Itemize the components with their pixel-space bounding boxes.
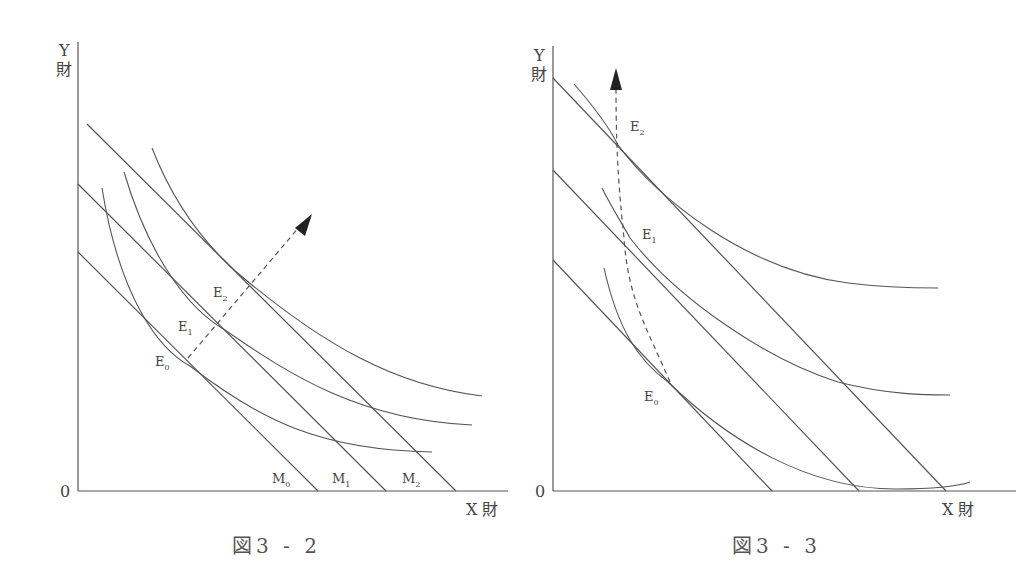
budget-line-m2 xyxy=(87,124,456,491)
point-e0: E0 xyxy=(155,355,170,372)
y-axis-label-y: Y xyxy=(59,43,70,59)
origin-label: 0 xyxy=(535,484,545,500)
indifference-curve-0 xyxy=(604,268,970,489)
point-e1: E1 xyxy=(178,320,193,337)
y-axis-label-y: Y xyxy=(534,48,545,64)
diagram-3-3-canvas xyxy=(518,0,1036,576)
budget-label-m0: M0 xyxy=(272,472,290,489)
arrowhead-icon xyxy=(295,214,312,236)
diagram-3-2-canvas xyxy=(0,0,518,576)
figure-caption: 図3 - 3 xyxy=(732,530,821,559)
indifference-curve-0 xyxy=(102,188,432,452)
figure-3-2: Y 財 0 X 財 E0 E1 E2 M0 M1 M2 図3 - 2 xyxy=(0,0,518,576)
point-e2: E2 xyxy=(213,286,228,303)
budget-line-0 xyxy=(553,260,772,491)
point-e0: E0 xyxy=(644,390,659,407)
indifference-curve-2 xyxy=(574,84,938,288)
arrowhead-icon xyxy=(610,68,622,90)
x-axis-label: X 財 xyxy=(942,502,974,518)
income-expansion-path xyxy=(188,226,300,358)
y-axis-label-good: 財 xyxy=(531,67,547,83)
indifference-curve-2 xyxy=(152,148,482,396)
budget-label-m1: M1 xyxy=(332,472,350,489)
budget-line-2 xyxy=(553,78,946,491)
budget-label-m2: M2 xyxy=(402,472,420,489)
point-e1: E1 xyxy=(642,228,657,245)
x-axis-label: X 財 xyxy=(466,502,498,518)
y-axis-label-good: 財 xyxy=(56,62,72,78)
budget-line-m1 xyxy=(78,184,386,491)
indifference-curve-1 xyxy=(602,188,950,395)
budget-line-1 xyxy=(553,170,859,491)
point-e2: E2 xyxy=(630,120,645,137)
figure-caption: 図3 - 2 xyxy=(232,530,321,559)
figure-3-3: Y 財 0 X 財 E0 E1 E2 図3 - 3 xyxy=(518,0,1036,576)
origin-label: 0 xyxy=(60,484,70,500)
indifference-curve-1 xyxy=(124,172,472,425)
